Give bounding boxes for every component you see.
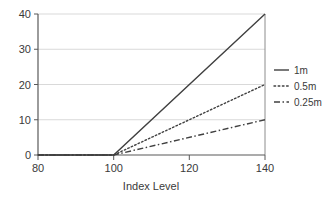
x-tick-label-120: 120 [180,162,198,174]
y-tick-label-10: 10 [19,114,31,126]
x-tick-label-140: 140 [256,162,274,174]
chart-container: 40 30 20 10 0 80 100 120 140 Index Level… [0,0,329,197]
x-tick-label-100: 100 [105,162,123,174]
legend-label-0.5m: 0.5m [294,81,316,92]
y-tick-label-0: 0 [25,149,31,161]
y-tick-label-20: 20 [19,79,31,91]
legend: 1m 0.5m 0.25m [274,65,322,108]
legend-label-0.25m: 0.25m [294,97,322,108]
x-tick-label-80: 80 [32,162,44,174]
x-tick-marks [38,155,265,160]
x-axis-title: Index Level [123,180,179,192]
y-tick-label-30: 30 [19,43,31,55]
line-chart: 40 30 20 10 0 80 100 120 140 Index Level… [0,0,329,197]
y-tick-label-40: 40 [19,8,31,20]
legend-label-1m: 1m [294,65,308,76]
